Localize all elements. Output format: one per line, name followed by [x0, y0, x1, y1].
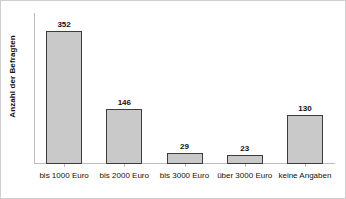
- bar-rect[interactable]: [106, 109, 142, 164]
- bar-group-0: 352: [34, 13, 94, 164]
- plot-area: 352 146 29 23 130: [34, 13, 335, 164]
- bar-value-label: 29: [180, 142, 189, 151]
- bar-group-1: 146: [94, 13, 154, 164]
- x-tick-label-3: über 3000 Euro: [215, 170, 275, 182]
- bar-group-2: 29: [154, 13, 214, 164]
- x-axis-tick: [245, 164, 246, 167]
- bar-rect[interactable]: [227, 155, 263, 164]
- bar-rect[interactable]: [287, 115, 323, 164]
- bar-value-label: 146: [118, 98, 131, 107]
- x-tick-label-1: bis 2000 Euro: [94, 170, 154, 182]
- bar-value-label: 130: [298, 104, 311, 113]
- bar-chart-figure: Anzahl der Befragten 352 146 29 23: [0, 0, 346, 199]
- y-axis-title: Anzahl der Befragten: [3, 1, 21, 151]
- x-tick-label-4: keine Angaben: [275, 170, 335, 182]
- x-axis-tick: [64, 164, 65, 167]
- x-axis-tick: [185, 164, 186, 167]
- x-tick-label-2: bis 3000 Euro: [154, 170, 214, 182]
- bar-series: 352 146 29 23 130: [34, 13, 335, 164]
- bar-rect[interactable]: [46, 31, 82, 164]
- bar-group-4: 130: [275, 13, 335, 164]
- x-axis-tick: [124, 164, 125, 167]
- y-axis-title-text: Anzahl der Befragten: [8, 35, 17, 117]
- bar-rect[interactable]: [167, 153, 203, 164]
- bar-value-label: 352: [57, 20, 70, 29]
- x-axis-tick: [305, 164, 306, 167]
- x-axis-tick-labels: bis 1000 Euro bis 2000 Euro bis 3000 Eur…: [34, 170, 335, 182]
- bar-value-label: 23: [240, 144, 249, 153]
- x-tick-label-0: bis 1000 Euro: [34, 170, 94, 182]
- bar-group-3: 23: [215, 13, 275, 164]
